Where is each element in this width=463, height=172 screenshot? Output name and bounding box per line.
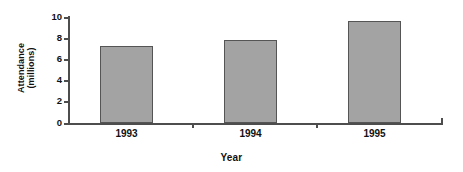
x-axis-line — [68, 123, 443, 125]
y-tick-label-0: 0 — [57, 117, 62, 128]
y-tick-label-4: 4 — [57, 74, 62, 85]
x-tick-label-1993: 1993 — [68, 128, 185, 139]
x-axis-end-cap — [441, 118, 443, 125]
x-tick-label-1994: 1994 — [192, 128, 309, 139]
bar-1995 — [348, 21, 401, 123]
y-tick-label-2: 2 — [57, 95, 62, 106]
plot-area: 0 2 4 6 8 10 — [68, 16, 443, 124]
y-tick-label-10: 10 — [51, 11, 62, 22]
bar-chart: Attendance (millions) 0 2 4 6 8 — [0, 0, 463, 172]
bar-1993 — [100, 46, 153, 123]
x-tick-label-1995: 1995 — [316, 128, 433, 139]
x-axis-title: Year — [0, 152, 463, 163]
y-axis-line — [68, 16, 70, 124]
y-axis-title-line-1: Attendance — [16, 43, 27, 93]
y-axis-title-line-2: (millions) — [26, 43, 37, 93]
bar-1994 — [224, 40, 277, 123]
y-tick-label-8: 8 — [57, 32, 62, 43]
y-tick-label-6: 6 — [57, 53, 62, 64]
